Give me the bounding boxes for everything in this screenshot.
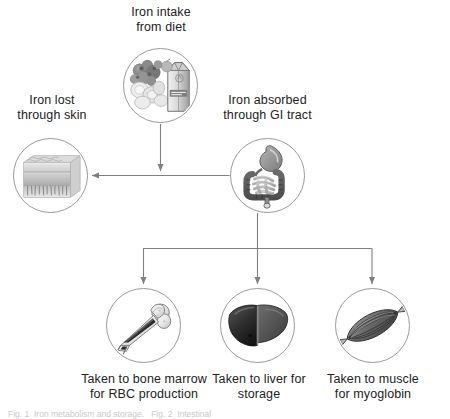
- label-taken-to-liver: Taken to liver for storage: [204, 372, 314, 401]
- label-iron-lost-through-skin: Iron lost through skin: [0, 93, 108, 122]
- node-liver-circle[interactable]: [220, 288, 295, 363]
- arrow-gi-to-distribution-bus: [143, 213, 372, 284]
- food-plate-and-milk-carton-icon: [124, 49, 197, 122]
- figure-caption: Fig. 1 Iron metabolism and storage. Fig.…: [8, 409, 211, 419]
- skeletal-muscle-icon: [336, 289, 409, 362]
- node-gi-tract-circle[interactable]: [230, 138, 305, 213]
- node-muscle-circle[interactable]: [335, 288, 410, 363]
- label-iron-absorbed-through-gi-tract: Iron absorbed through GI tract: [192, 93, 343, 122]
- skin-cross-section-icon: [14, 139, 87, 212]
- node-diet-circle[interactable]: [123, 48, 198, 123]
- node-bone-marrow-circle[interactable]: [106, 288, 181, 363]
- label-iron-intake-from-diet: Iron intake from diet: [95, 5, 227, 34]
- label-taken-to-bone-marrow: Taken to bone marrow for RBC production: [73, 372, 215, 401]
- label-taken-to-muscle: Taken to muscle for myoglobin: [318, 372, 428, 401]
- stomach-and-intestines-icon: [231, 139, 304, 212]
- liver-icon: [221, 289, 294, 362]
- femur-bone-marrow-icon: [107, 289, 180, 362]
- node-skin-circle[interactable]: [13, 138, 88, 213]
